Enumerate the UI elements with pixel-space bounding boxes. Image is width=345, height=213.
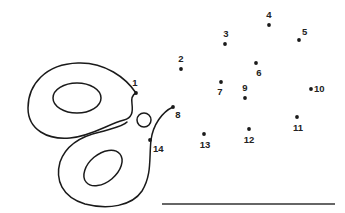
dot-label-14: 14 xyxy=(153,143,164,154)
dot-label-3: 3 xyxy=(223,28,228,39)
dot-7 xyxy=(219,80,223,84)
dot-1 xyxy=(134,91,138,95)
dot-label-9: 9 xyxy=(242,82,247,93)
dot-label-11: 11 xyxy=(293,122,304,133)
dot-label-10: 10 xyxy=(314,83,325,94)
body-circle xyxy=(137,113,151,127)
dot-label-6: 6 xyxy=(256,67,261,78)
upper-wing-inner-oval xyxy=(53,83,101,113)
dot-12 xyxy=(247,127,251,131)
dot-label-2: 2 xyxy=(178,53,183,64)
dot-label-8: 8 xyxy=(175,109,180,120)
upper-wing-outline xyxy=(28,63,136,138)
dot-6 xyxy=(254,61,258,65)
dot-3 xyxy=(223,42,227,46)
dot-4 xyxy=(267,23,271,27)
connect-the-dots-canvas: 1234567891011121314 xyxy=(0,0,345,213)
dot-10 xyxy=(309,87,313,91)
dot-label-7: 7 xyxy=(217,86,222,97)
dot-14 xyxy=(148,138,152,142)
dot-label-5: 5 xyxy=(302,26,308,37)
dot-8 xyxy=(171,105,175,109)
dots-layer: 1234567891011121314 xyxy=(132,9,324,154)
dot-13 xyxy=(202,132,206,136)
lower-wing-inner-oval xyxy=(77,143,129,193)
dot-label-4: 4 xyxy=(266,9,272,20)
dot-5 xyxy=(297,38,301,42)
dot-label-1: 1 xyxy=(132,77,138,88)
dot-11 xyxy=(295,115,299,119)
dot-2 xyxy=(179,67,183,71)
dot-label-12: 12 xyxy=(244,134,255,145)
dot-label-13: 13 xyxy=(200,139,211,150)
dot-9 xyxy=(243,96,247,100)
